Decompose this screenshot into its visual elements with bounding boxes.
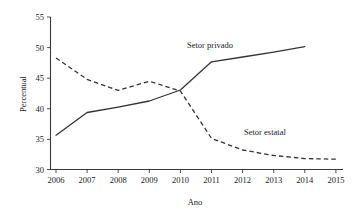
y-tick-label-45: 45 xyxy=(36,73,45,83)
y-tick-label-50: 50 xyxy=(36,43,45,53)
series-label-setor-estatal: Setor estatal xyxy=(244,127,286,137)
x-tick-label-2011: 2011 xyxy=(203,175,220,185)
y-tick-label-35: 35 xyxy=(36,134,45,144)
x-tick-label-2009: 2009 xyxy=(141,175,158,185)
series-line-setor-estatal xyxy=(56,58,336,159)
x-tick-label-2010: 2010 xyxy=(172,175,189,185)
x-tick-label-2015: 2015 xyxy=(327,175,344,185)
y-tick-label-40: 40 xyxy=(36,104,45,114)
x-tick-label-2008: 2008 xyxy=(110,175,127,185)
y-axis-tick-labels: 55 50 45 40 35 30 xyxy=(36,12,45,175)
x-tick-label-2012: 2012 xyxy=(234,175,251,185)
line-chart: 55 50 45 40 35 30 2006 2007 2008 2009 xyxy=(0,0,360,221)
x-tick-label-2007: 2007 xyxy=(79,175,96,185)
y-axis-title: Percentual xyxy=(18,75,28,112)
y-tick-label-55: 55 xyxy=(36,12,45,22)
y-tick-label-30: 30 xyxy=(36,165,45,175)
x-axis-title: Ano xyxy=(188,197,203,207)
x-axis-tick-labels: 2006 2007 2008 2009 2010 2011 2012 2013 … xyxy=(48,175,345,185)
x-tick-label-2006: 2006 xyxy=(48,175,65,185)
series-label-setor-privado: Setor privado xyxy=(187,40,233,50)
x-tick-label-2013: 2013 xyxy=(265,175,282,185)
x-tick-label-2014: 2014 xyxy=(296,175,314,185)
chart-figure: 55 50 45 40 35 30 2006 2007 2008 2009 xyxy=(0,0,360,221)
